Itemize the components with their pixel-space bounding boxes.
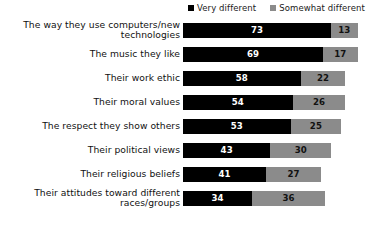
category-label-line: races/groups [120, 197, 180, 208]
bar-value-label: 58 [236, 74, 248, 83]
category-label: Their political views [4, 145, 180, 156]
category-label: Their work ethic [4, 73, 180, 84]
category-label: Their moral values [4, 97, 180, 108]
bar-value-label: 25 [310, 122, 322, 131]
chart-row: The respect they show others5325 [0, 114, 384, 138]
category-label-line: Their political views [88, 144, 180, 155]
bar-segment-somewhat-different: 13 [331, 23, 357, 38]
bar-segment-somewhat-different: 26 [293, 95, 346, 110]
bar-value-label: 43 [221, 146, 233, 155]
bar-segment-very-different: 73 [183, 23, 331, 38]
category-label: The respect they show others [4, 121, 180, 132]
bar-segment-very-different: 34 [183, 191, 252, 206]
category-label-line: technologies [121, 29, 180, 40]
bar-value-label: 73 [251, 26, 263, 35]
chart-row: The way they use computers/newtechnologi… [0, 18, 384, 42]
bar-segment-somewhat-different: 36 [252, 191, 325, 206]
chart-row: Their religious beliefs4127 [0, 162, 384, 186]
category-label-line: The music they like [90, 48, 180, 59]
bar-value-label: 26 [313, 98, 325, 107]
legend-entry-somewhat-different: Somewhat different [270, 3, 365, 13]
chart-row: Their moral values5426 [0, 90, 384, 114]
bar-value-label: 30 [295, 146, 307, 155]
stacked-bar-chart: Very different Somewhat different The wa… [0, 0, 384, 238]
category-label: Their attitudes toward differentraces/gr… [4, 188, 180, 209]
category-label: The music they like [4, 49, 180, 60]
bar-segment-very-different: 69 [183, 47, 323, 62]
legend-label-somewhat-different: Somewhat different [279, 3, 365, 13]
bar-segment-very-different: 58 [183, 71, 301, 86]
bar-value-label: 17 [334, 50, 346, 59]
bar-segment-very-different: 43 [183, 143, 270, 158]
bar-segment-very-different: 41 [183, 167, 266, 182]
stacked-bar: 5325 [183, 119, 341, 134]
plot-area: The way they use computers/newtechnologi… [0, 17, 384, 238]
stacked-bar: 4127 [183, 167, 321, 182]
chart-row: Their attitudes toward differentraces/gr… [0, 186, 384, 210]
stacked-bar: 4330 [183, 143, 331, 158]
bar-value-label: 36 [282, 194, 294, 203]
category-label-line: Their religious beliefs [80, 168, 180, 179]
bar-value-label: 34 [211, 194, 223, 203]
stacked-bar: 5822 [183, 71, 345, 86]
bar-segment-somewhat-different: 30 [270, 143, 331, 158]
bar-segment-very-different: 54 [183, 95, 293, 110]
legend-label-very-different: Very different [197, 3, 256, 13]
category-label: Their religious beliefs [4, 169, 180, 180]
stacked-bar: 3436 [183, 191, 325, 206]
category-label-line: Their moral values [93, 96, 180, 107]
category-label: The way they use computers/newtechnologi… [4, 20, 180, 41]
chart-row: The music they like6917 [0, 42, 384, 66]
bar-value-label: 13 [338, 26, 350, 35]
square-marker-icon [270, 5, 276, 11]
bar-segment-somewhat-different: 22 [301, 71, 346, 86]
stacked-bar: 7313 [183, 23, 358, 38]
category-label-line: Their work ethic [105, 72, 180, 83]
chart-legend: Very different Somewhat different [188, 1, 384, 15]
square-marker-icon [188, 5, 194, 11]
bar-segment-somewhat-different: 25 [291, 119, 342, 134]
bar-segment-somewhat-different: 17 [323, 47, 358, 62]
bar-segment-somewhat-different: 27 [266, 167, 321, 182]
chart-row: Their political views4330 [0, 138, 384, 162]
bar-value-label: 69 [247, 50, 259, 59]
category-label-line: The way they use computers/new [23, 19, 180, 30]
category-label-line: The respect they show others [42, 120, 180, 131]
legend-entry-very-different: Very different [188, 3, 256, 13]
stacked-bar: 6917 [183, 47, 358, 62]
bar-value-label: 54 [232, 98, 244, 107]
bar-value-label: 53 [231, 122, 243, 131]
bar-value-label: 41 [219, 170, 231, 179]
category-label-line: Their attitudes toward different [34, 187, 180, 198]
chart-row: Their work ethic5822 [0, 66, 384, 90]
bar-value-label: 27 [288, 170, 300, 179]
bar-segment-very-different: 53 [183, 119, 291, 134]
stacked-bar: 5426 [183, 95, 345, 110]
bar-value-label: 22 [317, 74, 329, 83]
